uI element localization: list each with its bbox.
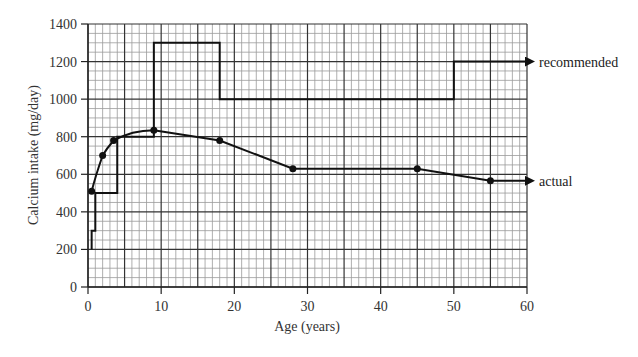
y-tick-label: 0 [70,280,77,295]
y-tick-label: 1400 [49,17,77,32]
y-tick-label: 1200 [49,55,77,70]
data-point-marker [487,177,494,184]
x-tick-label: 10 [154,299,168,314]
x-tick-label: 60 [520,299,534,314]
data-point-marker [216,137,223,144]
x-tick-label: 50 [447,299,461,314]
y-axis-title: Calcium intake (mg/day) [26,85,42,225]
data-point-marker [99,152,106,159]
y-tick-label: 400 [56,205,77,220]
y-axis-ticks: 0200400600800100012001400 [49,17,88,295]
data-point-marker [289,165,296,172]
x-tick-label: 0 [85,299,92,314]
y-tick-label: 200 [56,242,77,257]
calcium-intake-chart: 0102030405060 0200400600800100012001400 … [0,0,638,357]
x-tick-label: 40 [374,299,388,314]
y-tick-label: 1000 [49,92,77,107]
data-point-marker [150,127,157,134]
actual-line [92,130,527,191]
x-tick-label: 30 [301,299,315,314]
x-axis-ticks: 0102030405060 [85,287,535,314]
data-point-marker [88,188,95,195]
x-tick-label: 20 [227,299,241,314]
series-label-recommended: recommended [539,55,618,70]
series-label-actual: actual [539,174,573,189]
data-point-marker [110,137,117,144]
x-axis-title: Age (years) [274,319,340,335]
y-tick-label: 800 [56,130,77,145]
data-point-marker [414,165,421,172]
y-tick-label: 600 [56,167,77,182]
